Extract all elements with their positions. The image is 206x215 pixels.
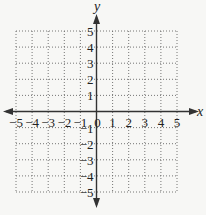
x-tick-label: 4 [158,115,165,130]
y-tick-label: −4 [80,169,94,184]
x-tick-label: 2 [125,115,132,130]
x-tick-label: −5 [9,115,23,130]
x-tick-label: −3 [41,115,55,130]
x-tick-label: 3 [142,115,149,130]
x-tick-label: 1 [109,115,116,130]
x-tick-label: 5 [174,115,181,130]
x-axis-label: x [196,104,204,119]
x-tick-label: −2 [57,115,71,130]
y-tick-label: 3 [87,56,94,71]
y-tick-label: 2 [87,72,94,87]
y-tick-label: 5 [87,24,94,39]
coordinate-plane: x y −5−4−3−2−1012345 54321−1−2−3−4−5 [0,0,206,215]
y-tick-label: 4 [87,40,94,55]
y-axis-down-arrow-icon [93,198,100,208]
y-axis-label: y [92,0,101,14]
y-tick-label: −5 [80,185,94,200]
y-axis-up-arrow-icon [93,14,100,24]
x-tick-label: −4 [25,115,39,130]
y-tick-label: −2 [80,137,94,152]
y-tick-label: −1 [80,121,94,136]
y-tick-label: −3 [80,153,94,168]
x-tick-label: 0 [94,115,101,130]
y-tick-label: 1 [87,88,94,103]
